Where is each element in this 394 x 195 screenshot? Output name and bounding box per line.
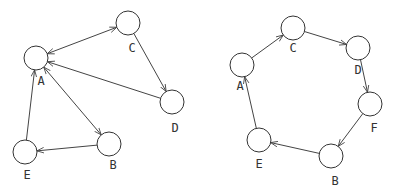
edge-e-a — [26, 70, 34, 140]
node-label-c: C — [289, 41, 296, 55]
node-f — [358, 92, 382, 116]
edge-a-c — [252, 35, 284, 58]
node-label-c: C — [128, 41, 135, 55]
left-graph-nodes: ACDBE — [13, 11, 184, 182]
node-b — [97, 132, 121, 156]
node-d — [160, 90, 184, 114]
edges-layer — [26, 27, 367, 153]
node-a — [230, 53, 254, 77]
node-label-d: D — [354, 63, 361, 77]
node-c — [116, 11, 140, 35]
edge-c-d — [134, 33, 166, 91]
node-a — [24, 46, 48, 70]
node-label-f: F — [370, 121, 377, 135]
edge-b-e — [37, 145, 97, 151]
node-label-b: B — [331, 174, 338, 188]
node-label-a: A — [37, 74, 45, 88]
edge-d-a — [47, 62, 160, 99]
edge-a-b — [44, 67, 101, 135]
edge-a-c — [47, 27, 117, 53]
nodes-layer: ACDBEACDFBE — [13, 11, 382, 188]
node-label-d: D — [171, 121, 178, 135]
edge-e-a — [245, 77, 257, 129]
node-e — [247, 128, 271, 152]
node-label-e: E — [23, 168, 30, 182]
edge-f-b — [338, 114, 363, 147]
node-d — [346, 36, 370, 60]
node-label-b: B — [109, 158, 116, 172]
node-c — [281, 16, 305, 40]
left-graph-edges — [26, 27, 166, 151]
node-label-a: A — [236, 79, 244, 93]
node-label-e: E — [255, 157, 262, 171]
edge-c-d — [304, 32, 346, 45]
edge-b-e — [271, 143, 320, 154]
right-graph-nodes: ACDFBE — [230, 16, 382, 188]
node-e — [13, 140, 37, 164]
graph-diagram-canvas: ACDBEACDFBE — [0, 0, 394, 195]
node-b — [319, 144, 343, 168]
